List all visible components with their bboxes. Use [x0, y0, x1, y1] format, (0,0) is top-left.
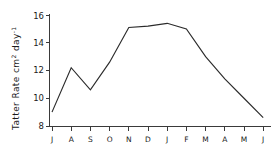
- y-axis-title-sup-inverse: -1: [10, 26, 17, 33]
- x-tick-label-jun: J: [261, 135, 264, 144]
- x-tick-label-may: M: [241, 135, 247, 144]
- chart-background: [0, 0, 279, 157]
- y-tick-label-10: 10: [33, 93, 44, 103]
- x-tick-label-dec: D: [145, 135, 151, 144]
- y-axis-title-main: Tatter Rate cm: [11, 59, 21, 132]
- chart-canvas: Tatter Rate cm2 day-1 16 14 12 10 8: [0, 0, 279, 157]
- y-axis-title: Tatter Rate cm2 day-1: [10, 26, 22, 131]
- x-tick-label-jan: J: [165, 135, 168, 144]
- y-tick-label-12: 12: [33, 65, 44, 75]
- tatter-rate-line-chart: Tatter Rate cm2 day-1 16 14 12 10 8: [0, 0, 279, 157]
- x-tick-label-aug: A: [69, 135, 75, 144]
- x-tick-label-sep: S: [88, 135, 93, 144]
- x-tick-label-apr: A: [222, 135, 228, 144]
- y-tick-label-8: 8: [39, 121, 44, 131]
- x-tick-label-mar: M: [202, 135, 208, 144]
- x-tick-label-nov: N: [126, 135, 132, 144]
- x-tick-label-oct: O: [107, 135, 113, 144]
- x-tick-label-feb: F: [184, 135, 188, 144]
- y-tick-label-16: 16: [33, 11, 44, 21]
- y-axis-title-day: day: [11, 33, 21, 54]
- x-tick-label-jul: J: [50, 135, 53, 144]
- y-tick-label-14: 14: [33, 38, 44, 48]
